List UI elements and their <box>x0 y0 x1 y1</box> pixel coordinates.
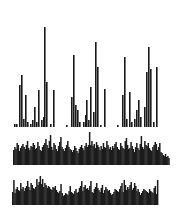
bar <box>153 122 155 127</box>
bar <box>124 57 126 127</box>
bar <box>104 89 106 127</box>
bar <box>157 180 159 205</box>
bottom-dense-waveform <box>12 176 158 205</box>
bar <box>25 95 27 127</box>
bar <box>93 112 95 127</box>
bar <box>77 110 79 127</box>
bar <box>14 124 16 127</box>
bar <box>122 95 124 127</box>
bar <box>19 85 21 127</box>
middle-dense-waveform <box>13 132 170 165</box>
figure <box>0 0 178 220</box>
top-sparse-histogram <box>14 27 158 127</box>
bar <box>134 119 136 127</box>
bar <box>88 120 90 127</box>
bar <box>140 117 142 127</box>
bar <box>71 97 73 127</box>
bar <box>95 42 97 127</box>
bar <box>75 105 77 127</box>
bar <box>136 110 138 127</box>
bar <box>156 67 158 127</box>
bar <box>53 90 55 127</box>
bar <box>131 122 133 127</box>
bar <box>138 100 140 127</box>
bar <box>50 124 52 127</box>
bar <box>23 119 25 127</box>
bar <box>144 107 146 127</box>
bar <box>21 75 23 127</box>
bar <box>73 55 75 127</box>
bar <box>41 120 43 127</box>
bar <box>79 122 81 127</box>
bar <box>30 124 32 127</box>
bar <box>32 120 34 127</box>
bar <box>16 124 18 127</box>
bar <box>129 92 131 127</box>
bar <box>83 122 85 127</box>
bar <box>36 122 38 127</box>
bar <box>66 125 68 127</box>
bar <box>168 158 170 165</box>
bar <box>34 107 36 127</box>
bar-chart-figure <box>0 0 178 220</box>
bar <box>126 119 128 127</box>
bar <box>86 100 88 127</box>
bar <box>97 67 99 127</box>
bar <box>148 47 150 127</box>
bar <box>46 82 48 127</box>
bar <box>117 125 119 127</box>
bar <box>38 90 40 127</box>
bar <box>146 72 148 127</box>
bar <box>150 69 152 127</box>
bar <box>90 87 92 127</box>
bar <box>44 27 46 127</box>
bar <box>27 122 29 127</box>
bar <box>100 125 102 127</box>
